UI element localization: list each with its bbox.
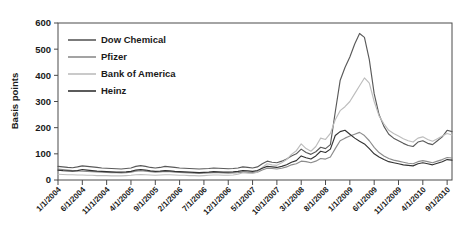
y-tick-label: 0: [46, 174, 51, 185]
x-tick-label: 1/1/2004: [35, 185, 64, 214]
legend-label-heinz: Heinz: [101, 85, 127, 96]
legend-label-bank-of-america: Bank of America: [101, 68, 176, 79]
x-tick-label: 9/1/2010: [424, 185, 453, 214]
y-tick-label: 500: [35, 44, 51, 55]
x-tick-label: 1/1/2009: [326, 185, 355, 214]
y-tick-label: 100: [35, 148, 51, 159]
legend-label-pfizer: Pfizer: [101, 51, 127, 62]
x-axis-ticks: 1/1/20046/1/200411/1/20044/1/20059/1/200…: [35, 180, 453, 217]
line-chart: Basis points 0100200300400500600 1/1/200…: [0, 0, 470, 239]
y-tick-label: 300: [35, 96, 51, 107]
y-axis-title: Basis points: [9, 73, 20, 130]
chart-canvas: Basis points 0100200300400500600 1/1/200…: [0, 0, 470, 239]
x-tick-label: 2/1/2006: [156, 185, 185, 214]
legend-label-dow-chemical: Dow Chemical: [101, 34, 166, 45]
chart-legend: Dow ChemicalPfizerBank of AmericaHeinz: [68, 34, 176, 96]
plot-frame: [58, 23, 452, 180]
x-tick-label: 4/1/2005: [107, 185, 136, 214]
y-axis-ticks: 0100200300400500600: [35, 17, 58, 185]
x-tick-label: 8/1/2008: [302, 185, 331, 214]
y-tick-label: 200: [35, 122, 51, 133]
plot-area-border: [58, 23, 452, 180]
y-tick-label: 600: [35, 17, 51, 28]
x-tick-label: 4/1/2010: [399, 185, 428, 214]
x-tick-label: 3/1/2008: [278, 185, 307, 214]
y-axis-title-text: Basis points: [9, 73, 20, 130]
x-tick-label: 9/1/2005: [132, 185, 161, 214]
series-line-heinz: [58, 130, 452, 172]
y-tick-label: 400: [35, 70, 51, 81]
